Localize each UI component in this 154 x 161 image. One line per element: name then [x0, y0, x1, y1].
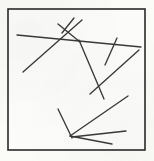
line-sketch-svg	[0, 0, 154, 161]
figure-canvas	[0, 0, 154, 161]
square-frame-border	[8, 9, 145, 150]
